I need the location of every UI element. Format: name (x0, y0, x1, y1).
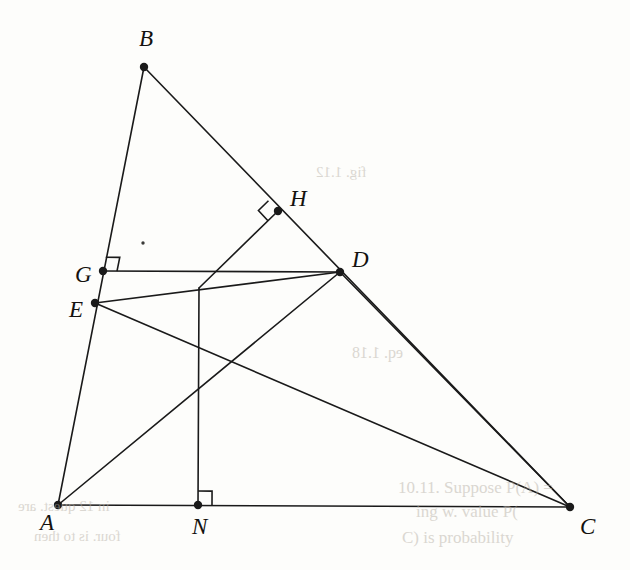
vertex-dot-g (99, 267, 107, 275)
geometry-figure: ABCDEGHN 10.11. Suppose P(A) =ing w. val… (0, 0, 630, 570)
segment-HM (199, 211, 278, 288)
stray-ink-speck (141, 241, 144, 244)
segment-GD (103, 271, 340, 272)
vertex-label-e: E (69, 298, 83, 321)
vertex-dot-n (194, 501, 202, 509)
right-angle-at-H (258, 201, 268, 221)
vertex-label-n: N (192, 515, 207, 538)
right-angle-layer (106, 201, 269, 505)
cevian-DC (340, 272, 570, 507)
segment-EC (95, 303, 570, 507)
vertex-label-h: H (290, 187, 307, 210)
vertex-label-a: A (40, 511, 54, 534)
vertex-label-g: G (75, 263, 92, 286)
side-AB (58, 67, 144, 505)
vertex-label-c: C (580, 515, 595, 538)
vertex-dot-c (566, 503, 574, 511)
vertex-dot-a (54, 501, 62, 509)
vertex-dot-d (336, 268, 344, 276)
vertex-dot-e (91, 299, 99, 307)
side-AC (58, 505, 570, 507)
vertex-label-d: D (352, 248, 369, 271)
vertex-dot-b (140, 63, 148, 71)
segment-ED (95, 272, 340, 303)
stray-mark-layer (141, 241, 144, 244)
right-angle-at-G (106, 257, 120, 271)
vertex-label-b: B (139, 27, 153, 50)
segment-layer (58, 67, 570, 507)
segment-MN (198, 288, 199, 505)
vertex-dot-h (274, 207, 282, 215)
geometry-canvas (0, 0, 630, 570)
